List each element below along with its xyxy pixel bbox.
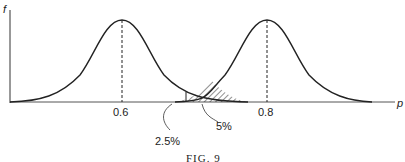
- figure-caption: FIG. 9: [186, 152, 221, 162]
- tick-label-0.6: 0.6: [113, 106, 128, 118]
- y-axis-label: f: [3, 3, 6, 15]
- tick-label-0.8: 0.8: [258, 106, 273, 118]
- diagram: [0, 0, 405, 162]
- leader-2.5: [164, 104, 173, 130]
- annotation-2.5-percent: 2.5%: [155, 135, 180, 147]
- annotation-5-percent: 5%: [216, 120, 232, 132]
- x-axis-label: p: [397, 97, 403, 109]
